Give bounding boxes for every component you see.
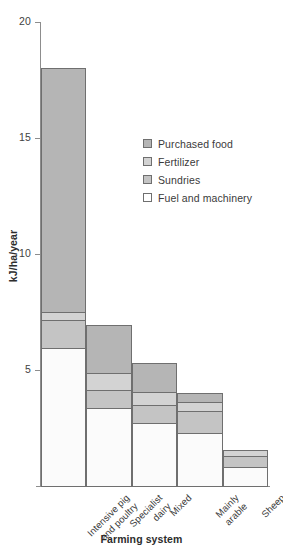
legend-item: Fertilizer bbox=[143, 154, 273, 170]
y-axis-title: kJ/ha/year bbox=[7, 211, 19, 301]
bar-segment-fuel-and-machinery bbox=[86, 408, 131, 487]
bar-mixed bbox=[132, 22, 177, 486]
legend-swatch-icon bbox=[143, 193, 152, 202]
bar-segment-purchased-food bbox=[41, 68, 86, 313]
stacked-bar-chart: 5101520 kJ/ha/year Purchased foodFertili… bbox=[0, 0, 283, 548]
bar-segment-sundries bbox=[41, 320, 86, 349]
y-axis-tick-label: 20 bbox=[1, 15, 31, 27]
x-axis-label-mainly-arable: Mainly arable bbox=[214, 492, 250, 528]
bar-segment-purchased-food bbox=[177, 393, 222, 403]
legend-item-label: Fuel and machinery bbox=[158, 192, 252, 204]
bar-segment-fuel-and-machinery bbox=[223, 467, 268, 487]
legend-item: Sundries bbox=[143, 172, 273, 188]
plot-area bbox=[41, 22, 268, 486]
bar-specialist-dairy bbox=[86, 22, 131, 486]
legend-item-label: Fertilizer bbox=[158, 156, 199, 168]
bar-segment-purchased-food bbox=[86, 325, 131, 375]
legend-item: Purchased food bbox=[143, 136, 273, 152]
x-axis-title: Farming system bbox=[0, 533, 283, 545]
legend-item-label: Purchased food bbox=[158, 138, 233, 150]
legend-item: Fuel and machinery bbox=[143, 190, 273, 206]
bar-segment-fuel-and-machinery bbox=[177, 433, 222, 487]
bar-segment-fertilizer bbox=[223, 450, 268, 457]
bar-segment-fuel-and-machinery bbox=[132, 423, 177, 487]
bar-segment-sundries bbox=[223, 456, 268, 469]
chart-legend: Purchased foodFertilizerSundriesFuel and… bbox=[143, 136, 273, 208]
legend-swatch-icon bbox=[143, 175, 152, 184]
x-axis-label-specialist-dairy: Specialist dairy bbox=[127, 492, 173, 538]
bar-segment-fuel-and-machinery bbox=[41, 348, 86, 487]
bar-segment-sundries bbox=[132, 405, 177, 425]
bar-segment-fertilizer bbox=[132, 392, 177, 406]
x-axis-label-mixed: Mixed bbox=[168, 492, 194, 518]
bar-intensive-pig-and-poultry bbox=[41, 22, 86, 486]
bar-segment-fertilizer bbox=[177, 402, 222, 411]
bar-segment-sundries bbox=[86, 390, 131, 410]
bar-segment-fertilizer bbox=[41, 312, 86, 321]
bar-sheep bbox=[223, 22, 268, 486]
legend-swatch-icon bbox=[143, 157, 152, 166]
y-axis-tick-label: 15 bbox=[1, 131, 31, 143]
x-axis-label-sheep: Sheep bbox=[259, 492, 283, 520]
bar-mainly-arable bbox=[177, 22, 222, 486]
y-axis-tick-label: 5 bbox=[1, 363, 31, 375]
legend-swatch-icon bbox=[143, 139, 152, 148]
legend-item-label: Sundries bbox=[158, 174, 200, 186]
bar-segment-purchased-food bbox=[132, 363, 177, 393]
bar-segment-fertilizer bbox=[86, 373, 131, 390]
bar-segment-sundries bbox=[177, 411, 222, 434]
